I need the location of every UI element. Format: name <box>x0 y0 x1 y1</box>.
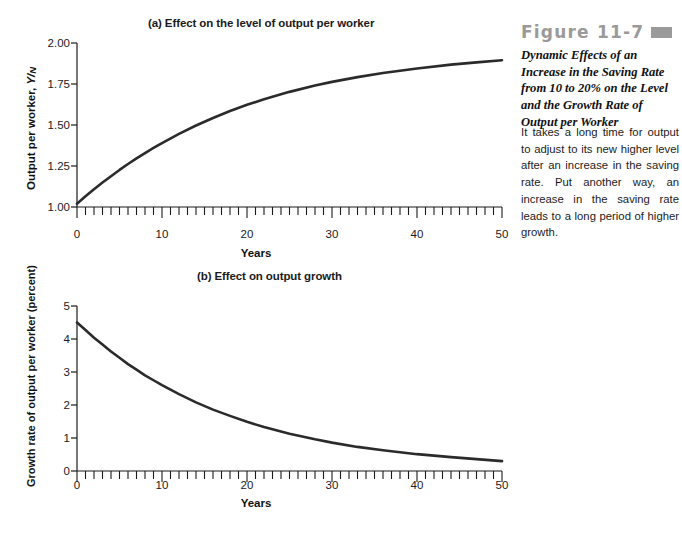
figure-heading-row: Figure 11-7 <box>521 22 672 42</box>
figure-number-label: Figure 11-7 <box>521 22 644 42</box>
figure-page: (a) Effect on the level of output per wo… <box>0 0 682 542</box>
figure-caption-body: It takes a long time for output to adjus… <box>521 124 679 241</box>
figure-heading-block-icon <box>651 27 672 38</box>
data-curve <box>77 323 502 462</box>
figure-subtitle: Dynamic Effects of an Increase in the Sa… <box>521 47 679 131</box>
figure-charts-area: (a) Effect on the level of output per wo… <box>0 0 512 542</box>
figure-caption: Figure 11-7 Dynamic Effects of an Increa… <box>521 0 682 542</box>
chart-b-plot <box>0 0 512 542</box>
